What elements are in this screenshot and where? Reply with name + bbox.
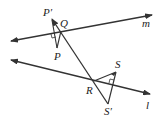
line-m [11,15,152,41]
label-s-prime: S′ [104,106,112,117]
label-q: Q [60,18,68,29]
segment-s-sprime [108,72,116,104]
label-m: m [142,18,150,29]
geometry-diagram: P′ Q P m R S S′ l [0,0,157,120]
label-p-prime: P′ [43,7,52,18]
label-p: P [54,51,61,62]
label-l: l [146,100,149,111]
line-l [11,60,150,94]
segment-p-q [57,31,61,48]
segment-p-pprime [52,20,57,48]
diagram-svg [0,0,157,120]
label-s: S [115,59,121,70]
label-r: R [86,85,93,96]
